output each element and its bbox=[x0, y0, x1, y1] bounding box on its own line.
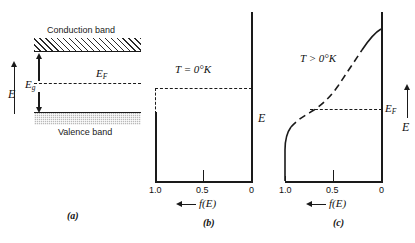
step-curve-dashed-horizontal-b bbox=[155, 88, 252, 89]
temperature-label-c: T > 0°K bbox=[300, 53, 336, 64]
x-tick-label-0-b: 0 bbox=[249, 186, 254, 195]
curve-segment-solid-lower bbox=[285, 127, 291, 181]
x-tick-label-0-c: 0 bbox=[379, 186, 384, 195]
energy-axis-shaft-c bbox=[407, 89, 408, 118]
panel-c-fermi-curve: 1.0 0.5 0 T > 0°K EF E f(E) (c) bbox=[280, 0, 415, 243]
energy-axis-label-b: E bbox=[258, 112, 265, 124]
valence-band-rect bbox=[34, 112, 141, 125]
panel-c-caption: (c) bbox=[333, 218, 344, 228]
figure-root: Conduction band Valence band EF E Eg (a) bbox=[0, 0, 415, 243]
fermi-dirac-curve-c bbox=[280, 0, 415, 200]
x-tick-label-0.5-c: 0.5 bbox=[326, 186, 339, 195]
panel-b-caption: (b) bbox=[203, 218, 215, 228]
conduction-band-rect bbox=[34, 38, 141, 52]
band-gap-arrowhead-bottom bbox=[36, 107, 42, 113]
x-tick-label-1.0-b: 1.0 bbox=[149, 186, 162, 195]
x-tick-label-0.5-b: 0.5 bbox=[196, 186, 209, 195]
x-tick-0.5-b bbox=[203, 170, 204, 181]
energy-axis-line-b bbox=[251, 12, 253, 182]
x-axis-label-c: f(E) bbox=[329, 198, 346, 209]
x-tick-0.5-c bbox=[333, 170, 334, 181]
x-tick-0-c bbox=[381, 176, 382, 182]
energy-axis-label-c: E bbox=[402, 121, 409, 133]
x-axis-label-b: f(E) bbox=[199, 198, 216, 209]
x-axis-line-b bbox=[155, 181, 253, 183]
step-curve-dashed-vertical-b bbox=[155, 88, 156, 114]
band-gap-label: Eg bbox=[25, 79, 35, 92]
valence-band-label: Valence band bbox=[58, 128, 112, 137]
step-curve-solid-b bbox=[155, 112, 157, 182]
conduction-band-label: Conduction band bbox=[47, 26, 115, 35]
fermi-level-label-a: EF bbox=[96, 68, 107, 81]
band-gap-line-upper bbox=[38, 58, 39, 81]
x-tick-label-1.0-c: 1.0 bbox=[279, 186, 292, 195]
curve-segment-solid-upper bbox=[362, 29, 381, 50]
temperature-label-b: T = 0°K bbox=[175, 64, 211, 75]
panel-b-step-function: 1.0 0.5 0 T = 0°K E f(E) (b) bbox=[150, 0, 280, 243]
x-tick-0-b bbox=[251, 176, 252, 182]
fermi-level-label-c: EF bbox=[385, 103, 396, 116]
energy-axis-label-a: E bbox=[8, 88, 15, 100]
x-axis-arrow-shaft-b bbox=[182, 204, 196, 205]
x-tick-1.0-c bbox=[285, 176, 286, 182]
x-tick-1.0-b bbox=[155, 176, 156, 182]
panel-a-band-diagram: Conduction band Valence band EF E Eg (a) bbox=[0, 0, 150, 243]
fermi-level-line-a bbox=[34, 83, 141, 84]
panel-a-caption: (a) bbox=[67, 211, 79, 221]
x-axis-arrow-shaft-c bbox=[312, 204, 326, 205]
